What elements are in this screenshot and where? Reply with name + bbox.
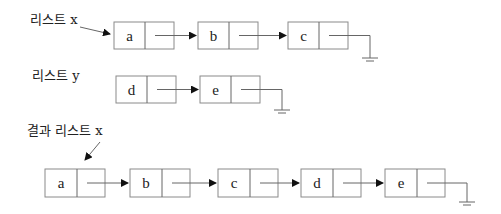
list-node: b: [130, 169, 216, 197]
list-node: d: [116, 76, 198, 103]
node-value: e: [212, 82, 219, 98]
node-value: d: [128, 82, 136, 98]
list-node: b: [198, 22, 286, 49]
list-node: c: [288, 22, 378, 61]
node-value: a: [58, 175, 65, 191]
list-node: a: [114, 22, 196, 49]
node-value: b: [142, 175, 150, 191]
list-node: e: [385, 169, 475, 205]
node-value: b: [210, 28, 218, 44]
node-value: c: [231, 175, 238, 191]
list-node: c: [218, 169, 299, 197]
label-list-x: 리스트 x: [30, 12, 78, 27]
label-result-list-x: 결과 리스트 x: [27, 123, 103, 138]
list-y-row: de: [116, 76, 290, 113]
list-x-head-pointer: [80, 27, 110, 34]
node-value: a: [126, 28, 133, 44]
list-node: e: [200, 76, 290, 113]
list-node: a: [45, 169, 128, 197]
result-list-x-head-pointer: [85, 142, 100, 160]
result-list-x-row: abcde: [45, 169, 475, 205]
label-list-y: 리스트 y: [32, 68, 80, 83]
list-node: d: [301, 169, 383, 197]
node-value: c: [300, 28, 307, 44]
list-x-row: abc: [114, 22, 378, 61]
linked-list-diagram: 리스트 x 리스트 y 결과 리스트 x abc de abcde: [0, 0, 501, 214]
node-value: e: [398, 175, 405, 191]
node-value: d: [313, 175, 321, 191]
